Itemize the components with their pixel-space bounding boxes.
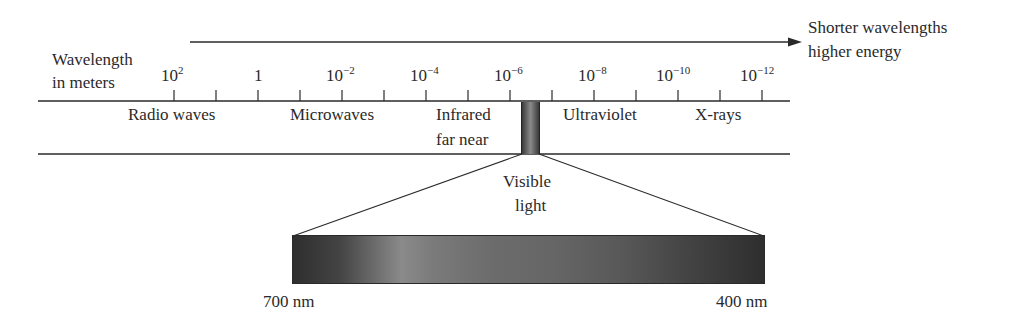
- axis-label-line1: Wavelength: [52, 50, 133, 70]
- tick-label-1: 1: [254, 64, 263, 86]
- arrow-label-line2: higher energy: [808, 42, 902, 62]
- visible-spectrum-bar: [292, 235, 765, 284]
- region-ultraviolet: Ultraviolet: [563, 105, 637, 125]
- region-microwaves: Microwaves: [290, 105, 374, 125]
- visible-light-band: [521, 102, 540, 154]
- tick-label-1e-8: 10−8: [578, 64, 607, 86]
- region-radio-waves: Radio waves: [128, 105, 215, 125]
- visible-label-line2: light: [515, 196, 546, 216]
- tick-label-1e-6: 10−6: [494, 64, 523, 86]
- tick-label-1e-2: 10−2: [326, 64, 355, 86]
- tick-label-1e-12: 10−12: [740, 64, 774, 86]
- region-xrays: X-rays: [695, 105, 741, 125]
- region-infrared-sub: far near: [436, 130, 488, 150]
- visible-label-line1: Visible: [503, 172, 551, 192]
- arrow-label-line1: Shorter wavelengths: [808, 18, 947, 38]
- region-infrared: Infrared: [436, 105, 491, 125]
- tick-label-1e2: 102: [161, 64, 184, 86]
- axis-label-line2: in meters: [52, 73, 115, 93]
- tick-label-1e-4: 10−4: [410, 64, 439, 86]
- spectrum-left-label: 700 nm: [263, 292, 314, 312]
- spectrum-right-label: 400 nm: [716, 292, 767, 312]
- tick-label-1e-10: 10−10: [656, 64, 690, 86]
